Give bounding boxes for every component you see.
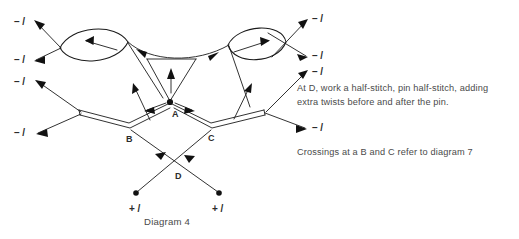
left-thread-upper-arrow bbox=[35, 80, 81, 112]
left-ribbon-thread bbox=[79, 104, 170, 128]
minus-label-left-4: – / bbox=[14, 127, 25, 138]
minus-label-right-4: – / bbox=[312, 122, 323, 133]
node-label-a: A bbox=[172, 109, 179, 119]
left-thread-fan bbox=[34, 20, 61, 64]
node-label-b: B bbox=[126, 134, 133, 144]
top-center-curve bbox=[128, 42, 229, 61]
annotation-note-crossings: Crossings at a B and C refer to diagram … bbox=[297, 145, 473, 159]
figure-caption: Diagram 4 bbox=[144, 216, 190, 227]
annotation-note-d: At D, work a half-stitch, pin half-stitc… bbox=[297, 81, 488, 109]
left-thread-lower-arrow bbox=[36, 114, 81, 137]
right-twist-loop bbox=[228, 28, 286, 60]
plus-label-right: + / bbox=[212, 203, 224, 214]
pin-dot-a bbox=[167, 99, 173, 105]
minus-label-right-1: – / bbox=[312, 13, 323, 24]
pin-dot-bottom-left bbox=[133, 190, 139, 196]
annotation-note-d-line2: extra twists before and after the pin. bbox=[297, 95, 488, 109]
left-twist-loop bbox=[60, 29, 128, 61]
pin-dot-bottom-right bbox=[216, 190, 222, 196]
minus-label-right-2: – / bbox=[312, 50, 323, 61]
minus-label-left-2: – / bbox=[14, 54, 25, 65]
node-label-c: C bbox=[208, 133, 215, 143]
right-thread-lower-arrow bbox=[265, 113, 307, 133]
annotation-note-d-line1: At D, work a half-stitch, pin half-stitc… bbox=[297, 81, 488, 95]
plus-label-left: + / bbox=[129, 203, 141, 214]
crossing-d bbox=[131, 130, 218, 192]
minus-label-left-1: – / bbox=[14, 16, 25, 27]
bobbin-lace-diagram: A B C D – / – / – / – / – / – / – / – / … bbox=[0, 0, 519, 239]
right-diagonal-thread bbox=[229, 46, 250, 107]
center-triangle bbox=[147, 59, 196, 101]
diagram-canvas: A B C D – / – / – / – / – / – / – / – / … bbox=[0, 0, 519, 239]
annotation-note-crossings-line1: Crossings at a B and C refer to diagram … bbox=[297, 145, 473, 159]
minus-label-right-3: – / bbox=[312, 66, 323, 77]
right-thread-fan bbox=[268, 19, 308, 61]
minus-label-left-3: – / bbox=[14, 76, 25, 87]
node-label-d: D bbox=[175, 171, 182, 181]
